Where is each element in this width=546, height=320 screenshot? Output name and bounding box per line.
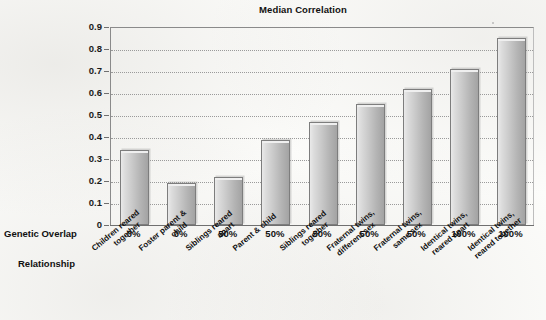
bar: [450, 69, 479, 225]
gridline: [111, 50, 533, 51]
chart-title: Median Correlation: [0, 4, 546, 15]
y-axis-tick-mark: [104, 115, 109, 116]
scan-speck: [492, 22, 494, 24]
y-axis-tick-label: 0.7: [68, 65, 102, 76]
bar: [356, 104, 385, 225]
y-axis-tick-mark: [104, 49, 109, 50]
y-axis-tick-mark: [104, 93, 109, 94]
y-axis-tick-mark: [104, 181, 109, 182]
y-axis-tick-label: 0.6: [68, 87, 102, 98]
y-axis-tick-mark: [104, 137, 109, 138]
y-axis-tick-label: 0.2: [68, 175, 102, 186]
bar: [403, 89, 432, 225]
y-axis-tick-mark: [104, 225, 109, 226]
y-axis-tick-label: 0.9: [68, 21, 102, 32]
bar: [497, 38, 526, 225]
y-axis-tick-mark: [104, 27, 109, 28]
relationship-row-label: Relationship: [18, 258, 75, 269]
bar: [261, 140, 290, 225]
y-axis-tick-label: 0.1: [68, 197, 102, 208]
genetic-overlap-value: 50%: [265, 228, 284, 239]
y-axis-tick-label: 0.3: [68, 153, 102, 164]
y-axis-tick-label: 0.8: [68, 43, 102, 54]
plot-area: [110, 27, 534, 225]
y-axis-tick-label: 0.4: [68, 131, 102, 142]
y-axis-tick-mark: [104, 159, 109, 160]
y-axis-tick-mark: [104, 71, 109, 72]
y-axis-tick-label: 0.5: [68, 109, 102, 120]
y-axis-tick-mark: [104, 203, 109, 204]
genetic-overlap-row-label: Genetic Overlap: [4, 228, 77, 239]
